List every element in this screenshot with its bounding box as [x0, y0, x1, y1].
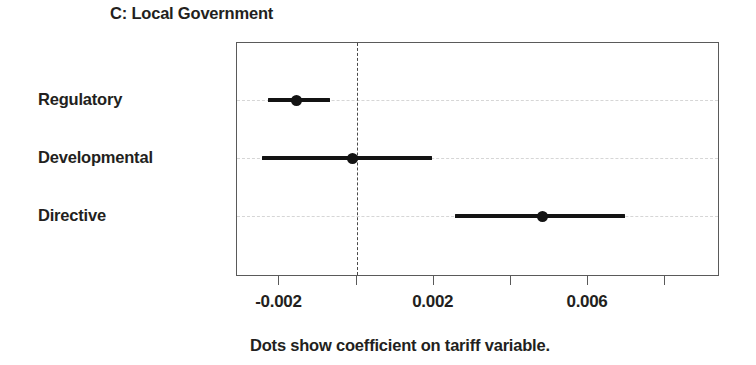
x-axis-tick-label: -0.002 [255, 292, 301, 312]
chart-caption: Dots show coefficient on tariff variable… [250, 336, 550, 355]
x-axis-tick-label: 0.006 [566, 292, 607, 312]
coefficient-dot [537, 211, 548, 222]
plot-area [236, 42, 719, 276]
x-axis-tick [587, 276, 588, 285]
y-axis-label-directive: Directive [38, 206, 106, 225]
y-axis-label-developmental: Developmental [38, 148, 153, 167]
x-axis-tick-label: 0.002 [412, 292, 453, 312]
coefficient-plot-figure: C: Local Government Regulatory Developme… [0, 0, 756, 365]
y-axis-label-regulatory: Regulatory [38, 90, 122, 109]
x-axis-tick [510, 276, 511, 285]
coefficient-dot [347, 153, 358, 164]
x-axis-tick [278, 276, 279, 285]
x-axis-tick [356, 276, 357, 285]
x-axis-tick [664, 276, 665, 285]
page-title: C: Local Government [110, 4, 273, 23]
coefficient-dot [291, 95, 302, 106]
x-axis-tick [433, 276, 434, 285]
